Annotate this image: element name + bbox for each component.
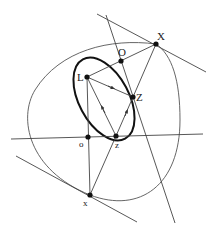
label-z-lower: z — [115, 140, 119, 150]
tangent-line-lower — [16, 156, 137, 222]
geometry-diagram: X O L Z o z x — [0, 0, 218, 232]
tangent-line-upper — [97, 14, 206, 72]
point-o-lower — [85, 134, 90, 139]
segment-L-z — [87, 77, 116, 136]
diagram-canvas: X O L Z o z x — [0, 0, 218, 232]
diagonal-line-long — [106, 15, 175, 223]
arrow-z-Z — [125, 111, 127, 116]
outer-curve — [28, 43, 180, 201]
label-o-lower: o — [79, 139, 84, 149]
point-X-upper — [153, 41, 158, 46]
arrow-L-Z — [108, 86, 113, 88]
point-x-lower — [87, 192, 92, 197]
segment-X-Z — [133, 44, 156, 97]
label-O-upper: O — [118, 46, 126, 58]
label-X-upper: X — [157, 30, 165, 42]
label-x-lower: x — [83, 198, 88, 208]
label-Z-mid: Z — [136, 91, 143, 103]
point-L — [84, 74, 89, 79]
point-z-lower — [113, 133, 118, 138]
point-Z-mid — [130, 94, 135, 99]
segment-z-x — [90, 136, 116, 195]
label-L: L — [77, 71, 84, 83]
point-O-upper — [118, 58, 123, 63]
segment-Z-z — [116, 97, 133, 136]
arrow-z-L — [102, 107, 105, 113]
